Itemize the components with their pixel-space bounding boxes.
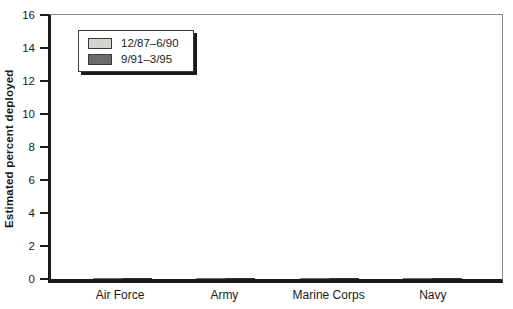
bar-group-navy [381,278,484,279]
y-tick-label: 6 [5,174,35,186]
bar-chart-figure: Estimated percent deployed 0246810121416… [0,0,513,309]
bar-group-marine-corps [278,278,381,279]
bar [225,278,255,279]
x-axis-labels: Air ForceArmyMarine CorpsNavy [48,288,503,302]
y-tick-mark [40,80,48,82]
y-tick-label: 2 [5,240,35,252]
y-tick-mark [40,179,48,181]
legend-item: 9/91–3/95 [88,53,179,65]
bar-group-army [174,278,277,279]
y-tick-mark [40,212,48,214]
y-tick-mark [40,47,48,49]
y-tick-label: 14 [5,42,35,54]
y-tick-label: 0 [5,273,35,285]
y-tick-mark [40,245,48,247]
y-tick-label: 16 [5,9,35,21]
x-axis-label: Navy [381,288,485,302]
x-axis-label: Marine Corps [277,288,381,302]
y-tick-mark [40,113,48,115]
bar [93,278,123,279]
bar [196,278,226,279]
y-tick-label: 8 [5,141,35,153]
legend: 12/87–6/909/91–3/95 [78,30,194,72]
legend-label: 9/91–3/95 [121,53,172,65]
bar [122,278,152,279]
legend-swatch [88,38,112,49]
bar [403,278,433,279]
bar [300,278,330,279]
legend-item: 12/87–6/90 [88,37,179,49]
y-tick-mark [40,14,48,16]
bar [432,278,462,279]
x-axis-label: Army [172,288,276,302]
bar [329,278,359,279]
legend-label: 12/87–6/90 [121,37,179,49]
x-axis-label: Air Force [68,288,172,302]
y-tick-label: 10 [5,108,35,120]
y-tick-label: 12 [5,75,35,87]
bar-group-air-force [71,278,174,279]
y-tick-mark [40,146,48,148]
y-tick-mark [40,278,48,280]
y-tick-label: 4 [5,207,35,219]
legend-swatch [88,54,112,65]
